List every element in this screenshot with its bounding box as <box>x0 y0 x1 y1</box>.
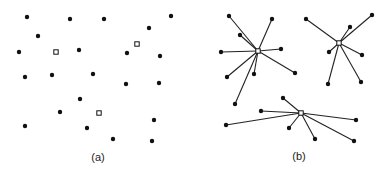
data-point <box>354 118 358 122</box>
data-point <box>147 26 151 30</box>
panel-a-label: (a) <box>91 152 104 163</box>
data-point <box>252 72 256 76</box>
cluster-edge <box>261 111 301 113</box>
cluster-edge <box>258 49 281 51</box>
data-point <box>77 48 81 52</box>
panel-b-label: (b) <box>292 151 305 162</box>
cluster-center <box>54 50 58 54</box>
data-point <box>152 118 156 122</box>
data-point <box>326 82 330 86</box>
cluster-edge <box>221 51 258 52</box>
data-point <box>158 54 162 58</box>
cluster-edge <box>328 43 339 84</box>
data-point <box>279 47 283 51</box>
data-point <box>225 75 229 79</box>
cluster-edge <box>339 15 372 43</box>
cluster-edge <box>258 51 295 73</box>
data-point <box>58 110 62 114</box>
data-point <box>238 33 242 37</box>
data-point <box>287 126 291 130</box>
data-point <box>370 13 374 17</box>
data-point <box>78 97 82 101</box>
data-point <box>17 50 21 54</box>
cluster-edge <box>226 113 301 125</box>
cluster-center <box>135 42 139 46</box>
cluster-center <box>256 49 260 53</box>
data-point <box>102 17 106 21</box>
data-point <box>36 34 40 38</box>
data-point <box>219 50 223 54</box>
figure-canvas <box>0 0 389 174</box>
panel-b-clusters <box>219 13 374 143</box>
data-point <box>352 139 356 143</box>
data-point <box>233 102 237 106</box>
cluster-edge <box>306 19 339 43</box>
data-point <box>281 96 285 100</box>
cluster-edge <box>229 16 258 51</box>
data-point <box>169 14 173 18</box>
data-point <box>23 75 27 79</box>
data-point <box>259 109 263 113</box>
cluster-edge <box>235 51 258 104</box>
panel-a-points <box>17 14 173 143</box>
data-point <box>125 51 129 55</box>
data-point <box>360 53 364 57</box>
data-point <box>304 17 308 21</box>
data-point <box>224 123 228 127</box>
cluster-edge <box>283 98 301 113</box>
cluster-center <box>299 111 303 115</box>
data-point <box>359 80 363 84</box>
data-point <box>150 139 154 143</box>
cluster-edge <box>301 113 356 120</box>
data-point <box>25 15 29 19</box>
data-point <box>313 137 317 141</box>
figure: (a) (b) <box>0 0 389 174</box>
data-point <box>157 81 161 85</box>
data-point <box>270 17 274 21</box>
data-point <box>91 72 95 76</box>
data-point <box>111 137 115 141</box>
data-point <box>227 14 231 18</box>
data-point <box>50 73 54 77</box>
data-point <box>348 25 352 29</box>
data-point <box>23 124 27 128</box>
cluster-center <box>97 111 101 115</box>
cluster-center <box>337 41 341 45</box>
data-point <box>327 50 331 54</box>
cluster-edge <box>258 19 272 51</box>
data-point <box>68 17 72 21</box>
data-point <box>85 126 89 130</box>
data-point <box>124 82 128 86</box>
data-point <box>293 71 297 75</box>
